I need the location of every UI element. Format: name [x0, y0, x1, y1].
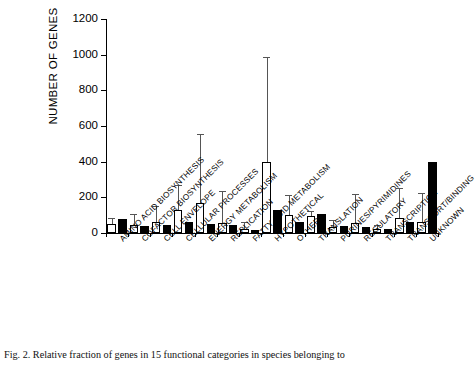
error-bar — [311, 212, 312, 216]
error-bar-cap — [263, 57, 270, 58]
y-tick-label: 200 — [58, 190, 98, 202]
error-bar-cap — [108, 218, 115, 219]
bar-group — [106, 19, 128, 233]
y-tick-label: 1200 — [58, 12, 98, 24]
error-bar — [112, 219, 113, 224]
error-bar-cap — [130, 214, 137, 215]
y-tick-label: 800 — [58, 83, 98, 95]
error-bar-cap — [418, 193, 425, 194]
error-bar — [267, 58, 268, 161]
error-bar — [200, 135, 201, 203]
bar-group — [327, 19, 349, 233]
category-labels: AMINO ACID BIOSYNTHESISCOFACTOR BIOSYNTH… — [0, 233, 458, 343]
y-tick-label: 600 — [58, 119, 98, 131]
y-tick-label: 1000 — [58, 48, 98, 60]
y-tick-label: 400 — [58, 155, 98, 167]
figure-caption: Fig. 2. Relative fraction of genes in 15… — [4, 349, 458, 361]
bar-open — [107, 224, 115, 233]
error-bar-cap — [197, 134, 204, 135]
bar-group — [128, 19, 150, 233]
error-bar-cap — [219, 191, 226, 192]
caption-fragment — [6, 337, 458, 344]
